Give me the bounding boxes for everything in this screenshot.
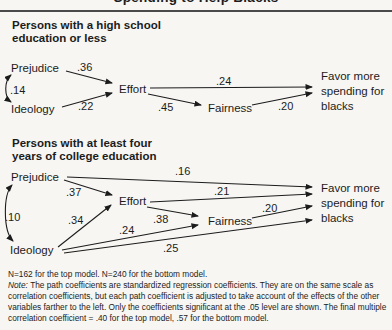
coef-top-ideology-effort: .22	[78, 100, 93, 112]
node-prejudice-bottom: Prejudice	[11, 171, 59, 183]
node-outcome-top-line3: blacks	[321, 100, 354, 112]
node-fairness-bottom: Fairness	[208, 215, 252, 227]
top-rule	[0, 10, 392, 12]
arrow-top-effort-fairness	[148, 94, 201, 105]
coef-bottom-fairness-outcome: .20	[262, 202, 277, 214]
node-outcome-top-line1: Favor more	[321, 70, 380, 82]
arrow-bottom-ideology-effort	[58, 205, 111, 247]
node-ideology-bottom: Ideology	[10, 244, 53, 256]
model-bottom-heading-line1: Persons with at least four	[12, 137, 152, 150]
node-outcome-bottom-line2: spending for	[321, 197, 384, 209]
arrow-bottom-prejudice-outcome	[67, 177, 312, 187]
node-outcome-bottom-line3: blacks	[321, 212, 354, 224]
node-outcome-bottom-line1: Favor more	[321, 182, 380, 194]
coef-top-prejudice-effort: .36	[77, 61, 92, 73]
arrow-bottom-effort-outcome	[150, 194, 312, 202]
figure-page: Spending to Help Blacks Persons with a h…	[0, 0, 392, 330]
node-effort-bottom: Effort	[119, 195, 146, 207]
footnote-note: Note: The path coefficients are standard…	[8, 280, 388, 324]
coef-top-fairness-outcome: .20	[278, 100, 293, 112]
node-effort-top: Effort	[119, 83, 146, 95]
arrow-top-effort-outcome	[150, 87, 312, 88]
footnote-sample-sizes: N=162 for the top model. N=240 for the b…	[8, 269, 388, 280]
coef-top-effort-outcome: .24	[216, 75, 231, 87]
clipped-figure-title: Spending to Help Blacks	[0, 0, 392, 5]
footnote-note-label: Note:	[8, 280, 30, 290]
coef-bottom-prejudice-effort: .37	[66, 186, 81, 198]
coef-bottom-ideology-outcome: .25	[163, 242, 178, 254]
model-top-heading-line2: education or less	[12, 32, 107, 45]
arrow-bottom-ideology-outcome	[64, 220, 312, 253]
coef-bottom-effort-outcome: .21	[214, 185, 229, 197]
model-bottom-heading-line2: years of college education	[12, 150, 156, 163]
arrow-bottom-fairness-outcome	[252, 206, 312, 218]
coef-bottom-prejudice-ideology: .10	[5, 211, 20, 223]
node-fairness-top: Fairness	[208, 102, 252, 114]
coef-bottom-effort-fairness: .38	[153, 213, 168, 225]
node-ideology-top: Ideology	[11, 103, 54, 115]
model-top-heading-line1: Persons with a high school	[12, 19, 161, 32]
node-prejudice-top: Prejudice	[11, 62, 59, 74]
coef-bottom-prejudice-outcome: .16	[175, 165, 190, 177]
coef-bottom-ideology-effort: .34	[68, 214, 83, 226]
footnote-note-text: The path coefficients are standardized r…	[8, 280, 386, 323]
node-outcome-top-line2: spending for	[321, 85, 384, 97]
coef-top-prejudice-ideology: .14	[10, 84, 25, 96]
coef-bottom-ideology-fairness: .24	[119, 224, 134, 236]
footnote-block: N=162 for the top model. N=240 for the b…	[8, 269, 388, 324]
coef-top-effort-fairness: .45	[158, 101, 173, 113]
